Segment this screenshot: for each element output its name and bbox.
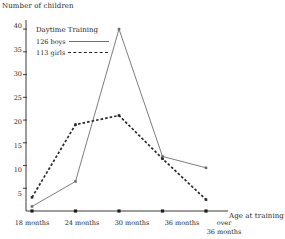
- data-point-boys-3: [161, 155, 164, 158]
- x-tick-marker-0: [30, 209, 33, 212]
- chart-container: Number of children Age at training 40 35…: [0, 0, 285, 239]
- series-line-girls: [32, 116, 206, 200]
- data-point-markers: [31, 28, 208, 208]
- x-tick-marker-3: [161, 209, 164, 212]
- data-point-girls-3: [161, 157, 164, 160]
- data-point-girls-2: [118, 114, 121, 117]
- data-point-boys-1: [74, 180, 77, 183]
- series-line-boys: [32, 29, 206, 206]
- x-tick-marker-1: [74, 209, 77, 212]
- data-series-layer: [32, 29, 206, 206]
- data-point-girls-4: [205, 198, 208, 201]
- data-point-girls-0: [31, 196, 34, 199]
- x-tick-marker-2: [117, 209, 120, 212]
- plot-area: [0, 0, 285, 239]
- axis-lines: [26, 20, 228, 211]
- data-point-boys-4: [205, 166, 208, 169]
- data-point-boys-0: [31, 205, 34, 208]
- data-point-girls-1: [74, 123, 77, 126]
- data-point-boys-2: [118, 28, 121, 31]
- x-tick-marker-4: [204, 209, 207, 212]
